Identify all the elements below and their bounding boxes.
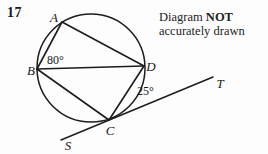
point-label-s: S	[65, 138, 72, 153]
chord-bc	[37, 69, 109, 120]
point-label-a: A	[49, 10, 58, 25]
point-label-d: D	[145, 59, 156, 74]
geometry-diagram: A B C D S T 80° 25°	[0, 0, 268, 154]
angle-label-abd: 80°	[47, 53, 64, 67]
chord-ad	[62, 22, 144, 66]
point-label-b: B	[27, 63, 35, 78]
angle-label-dct: 25°	[137, 84, 154, 98]
exam-question-region: 17 Diagram NOT accurately drawn A B C D …	[0, 0, 268, 154]
point-label-t: T	[216, 76, 224, 91]
point-label-c: C	[106, 123, 115, 138]
